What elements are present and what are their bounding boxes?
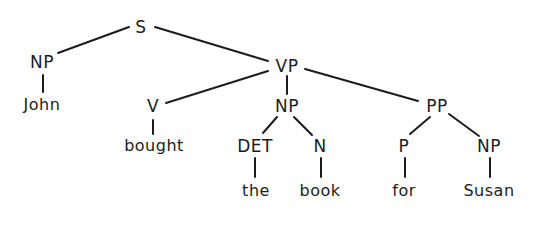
edge-s-to-vp [155, 27, 268, 61]
word-book: book [300, 183, 341, 199]
edge-pp-to-np3 [449, 114, 479, 136]
edge-pp-to-p [410, 117, 430, 134]
edge-np2-to-n [294, 117, 312, 135]
edge-vp-to-v [166, 71, 268, 103]
node-np1: NP [30, 54, 54, 71]
node-n: N [313, 138, 326, 155]
word-john: John [24, 97, 61, 113]
node-vp: VP [276, 58, 299, 75]
word-susan: Susan [463, 183, 514, 199]
node-np3: NP [477, 138, 501, 155]
word-the: the [242, 183, 270, 199]
node-p: P [399, 138, 410, 155]
edge-vp-to-pp [305, 69, 418, 101]
parse-tree-diagram: SNPJohnVPVboughtNPDETtheNbookPPPforNPSus… [0, 0, 542, 245]
node-pp: PP [426, 98, 448, 115]
word-bought: bought [124, 138, 184, 154]
node-v: V [147, 98, 159, 115]
edge-np2-to-det [263, 117, 277, 133]
word-for: for [392, 183, 416, 199]
edge-s-to-np1 [58, 27, 129, 53]
node-np2: NP [275, 98, 299, 115]
node-det: DET [237, 138, 273, 155]
node-s: S [135, 19, 146, 36]
tree-edges [0, 0, 542, 245]
